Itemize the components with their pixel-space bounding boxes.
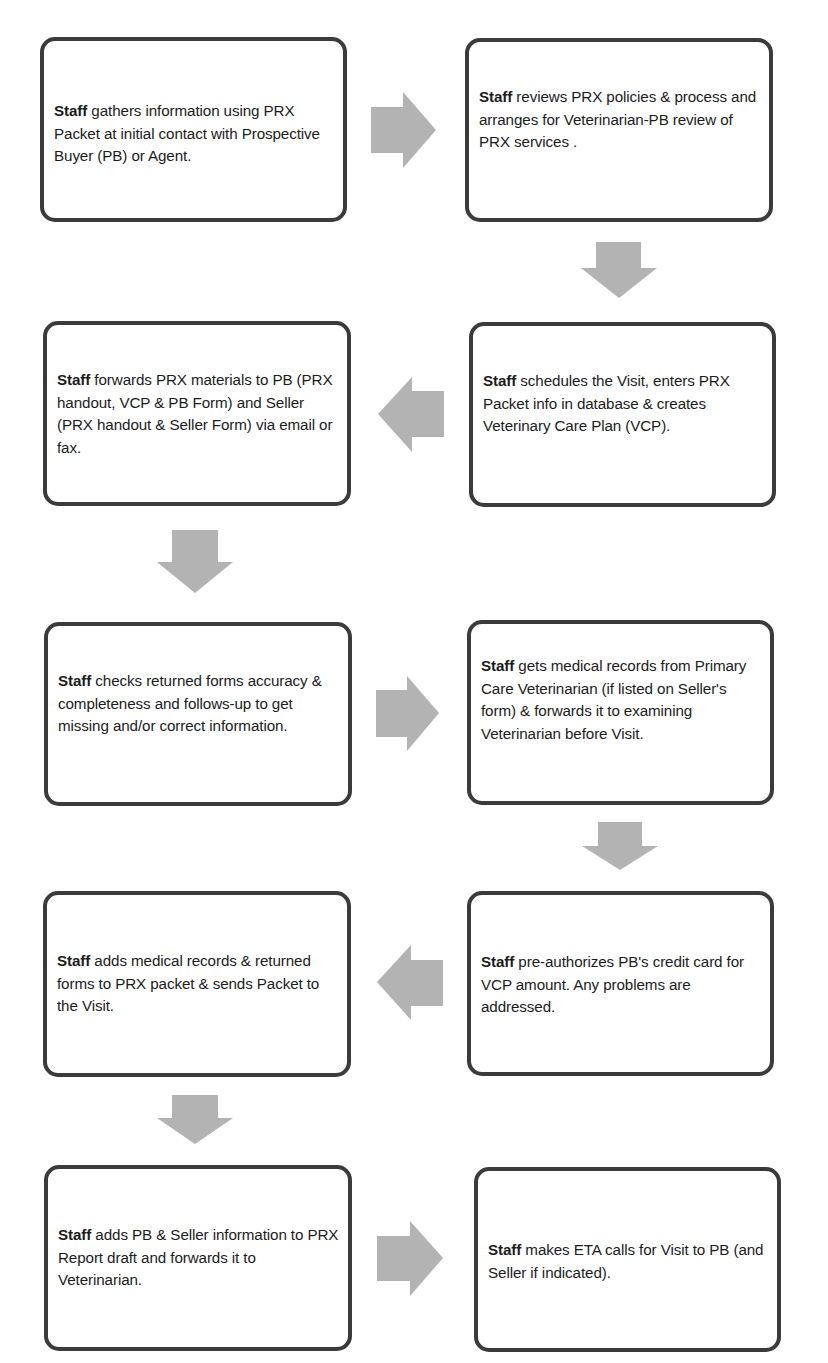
step-text-6: Staff gets medical records from Primary … [481,655,762,745]
step-description-7: adds medical records & returned forms to… [57,952,319,1014]
step-box-4-schedule-visit: Staff schedules the Visit, enters PRX Pa… [469,322,776,507]
step-text-3: Staff forwards PRX materials to PB (PRX … [57,369,339,459]
arrow-right-icon-1-to-2 [371,92,437,168]
arrow-down-icon-7-to-9 [157,1095,233,1144]
step-box-2-review-policies: Staff reviews PRX policies & process and… [465,38,773,222]
step-text-2: Staff reviews PRX policies & process and… [479,86,761,154]
step-box-6-get-medical-records: Staff gets medical records from Primary … [467,620,774,805]
step-text-4: Staff schedules the Visit, enters PRX Pa… [483,370,764,438]
step-actor-7: Staff [57,952,90,969]
step-box-7-add-medical-records: Staff adds medical records & returned fo… [43,891,351,1077]
step-description-9: adds PB & Seller information to PRX Repo… [58,1226,338,1288]
step-description-3: forwards PRX materials to PB (PRX handou… [57,371,332,456]
step-actor-4: Staff [483,372,516,389]
arrow-left-icon-4-to-3 [378,377,444,452]
step-box-1-gather-information: Staff gathers information using PRX Pack… [40,37,347,222]
arrow-right-icon-5-to-6 [376,676,439,751]
step-description-5: checks returned forms accuracy & complet… [58,672,322,734]
step-actor-10: Staff [488,1241,521,1258]
step-box-5-check-forms: Staff checks returned forms accuracy & c… [44,622,352,806]
step-actor-6: Staff [481,657,514,674]
step-actor-1: Staff [54,102,87,119]
step-box-8-preauthorize-card: Staff pre-authorizes PB's credit card fo… [467,891,774,1076]
step-box-9-add-report-info: Staff adds PB & Seller information to PR… [44,1165,352,1351]
step-text-9: Staff adds PB & Seller information to PR… [58,1224,340,1292]
step-box-10-eta-calls: Staff makes ETA calls for Visit to PB (a… [474,1167,781,1352]
step-description-2: reviews PRX policies & process and arran… [479,88,756,150]
arrow-down-icon-3-to-5 [157,530,233,593]
step-actor-9: Staff [58,1226,91,1243]
arrow-down-icon-2-to-4 [581,242,657,298]
step-description-8: pre-authorizes PB's credit card for VCP … [481,953,744,1015]
step-actor-2: Staff [479,88,512,105]
step-text-7: Staff adds medical records & returned fo… [57,950,339,1018]
flowchart-canvas: Staff gathers information using PRX Pack… [0,0,828,1363]
step-text-10: Staff makes ETA calls for Visit to PB (a… [488,1239,769,1284]
arrow-left-icon-8-to-7 [377,945,443,1020]
step-description-1: gathers information using PRX Packet at … [54,102,320,164]
step-description-10: makes ETA calls for Visit to PB (and Sel… [488,1241,763,1281]
step-text-8: Staff pre-authorizes PB's credit card fo… [481,951,762,1019]
step-box-3-forward-materials: Staff forwards PRX materials to PB (PRX … [43,321,351,506]
step-actor-8: Staff [481,953,514,970]
step-text-1: Staff gathers information using PRX Pack… [54,100,335,168]
arrow-down-icon-6-to-8 [582,822,658,870]
step-actor-3: Staff [57,371,90,388]
step-description-4: schedules the Visit, enters PRX Packet i… [483,372,730,434]
step-actor-5: Staff [58,672,91,689]
arrow-right-icon-9-to-10 [377,1221,443,1296]
step-text-5: Staff checks returned forms accuracy & c… [58,670,340,738]
step-description-6: gets medical records from Primary Care V… [481,657,746,742]
